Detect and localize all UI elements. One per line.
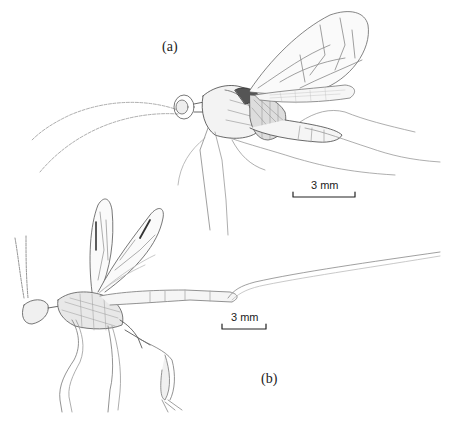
scale-bar-b-label: 3 mm bbox=[231, 311, 259, 323]
insect-a-drawing bbox=[32, 12, 440, 235]
scale-bar-a-label: 3 mm bbox=[311, 179, 339, 191]
panel-label-b: (b) bbox=[261, 371, 277, 387]
illustration-figure: (a) 3 mm 3 mm (b) bbox=[0, 0, 449, 424]
panel-label-a: (a) bbox=[162, 39, 178, 55]
scale-bar-b bbox=[222, 324, 266, 329]
insect-drawings bbox=[0, 0, 449, 424]
scale-bar-a bbox=[293, 192, 355, 197]
